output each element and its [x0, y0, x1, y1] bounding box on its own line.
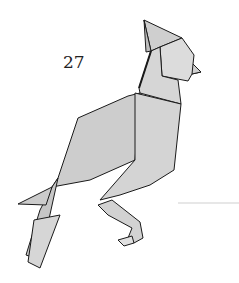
foot [118, 236, 134, 246]
origami-bird-figure [0, 0, 239, 283]
leg [98, 200, 143, 243]
beak [192, 64, 201, 74]
head [160, 38, 201, 81]
